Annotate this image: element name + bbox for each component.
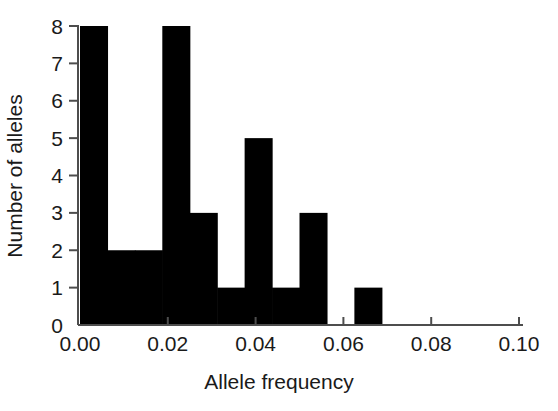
x-tick-label: 0.02 xyxy=(147,332,188,355)
histogram-bar xyxy=(162,26,190,325)
y-tick-label: 2 xyxy=(51,239,63,262)
bars-group xyxy=(80,26,382,325)
x-axis-title: Allele frequency xyxy=(204,370,354,393)
y-tick-label: 3 xyxy=(51,201,63,224)
y-tick-label: 4 xyxy=(51,164,63,187)
x-tick-label: 0.10 xyxy=(499,332,540,355)
x-tick-label: 0.06 xyxy=(323,332,364,355)
histogram-bar xyxy=(272,288,300,325)
histogram-figure: 0123456780.000.020.040.060.080.10Allele … xyxy=(0,0,558,411)
y-tick-label: 7 xyxy=(51,52,63,75)
y-tick-label: 8 xyxy=(51,15,63,38)
histogram-bar xyxy=(107,250,135,325)
histogram-bar xyxy=(217,288,245,325)
x-tick-label: 0.00 xyxy=(60,332,101,355)
histogram-bar xyxy=(245,138,273,325)
histogram-bar xyxy=(300,213,328,325)
x-tick-label: 0.04 xyxy=(235,332,276,355)
histogram-bar xyxy=(354,288,382,325)
histogram-plot: 0123456780.000.020.040.060.080.10Allele … xyxy=(0,0,558,411)
y-axis-title: Number of alleles xyxy=(3,94,26,257)
histogram-bar xyxy=(135,250,163,325)
histogram-bar xyxy=(190,213,218,325)
y-tick-label: 1 xyxy=(51,276,63,299)
x-tick-label: 0.08 xyxy=(411,332,452,355)
y-tick-label: 6 xyxy=(51,89,63,112)
y-tick-label: 5 xyxy=(51,127,63,150)
histogram-bar xyxy=(80,26,108,325)
